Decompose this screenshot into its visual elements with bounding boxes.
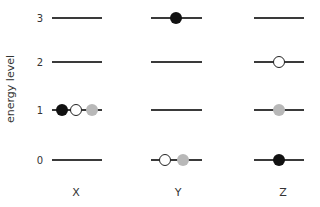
level-tick-1: 1	[37, 105, 43, 116]
column-label-x: X	[72, 186, 80, 199]
y-level-0-white-particle	[159, 154, 171, 166]
x-level-1-gray-particle	[86, 104, 98, 116]
z-level-1-gray-particle	[273, 104, 285, 116]
x-level-3-line	[52, 17, 102, 19]
level-tick-3: 3	[37, 13, 43, 24]
column-label-y: Y	[175, 186, 182, 199]
y-level-2-line	[151, 61, 202, 63]
x-level-2-line	[52, 61, 102, 63]
z-level-0-black-particle	[273, 154, 285, 166]
level-tick-2: 2	[37, 57, 43, 68]
level-tick-0: 0	[37, 155, 43, 166]
column-label-z: Z	[279, 186, 287, 199]
x-level-1-white-particle	[70, 104, 82, 116]
y-level-3-black-particle	[170, 12, 182, 24]
z-level-2-white-particle	[273, 56, 285, 68]
y-level-1-line	[151, 109, 202, 111]
z-level-3-line	[254, 17, 304, 19]
x-level-1-black-particle	[56, 104, 68, 116]
y-level-0-gray-particle	[177, 154, 189, 166]
y-axis-label: energy level	[4, 55, 17, 123]
x-level-0-line	[52, 159, 102, 161]
